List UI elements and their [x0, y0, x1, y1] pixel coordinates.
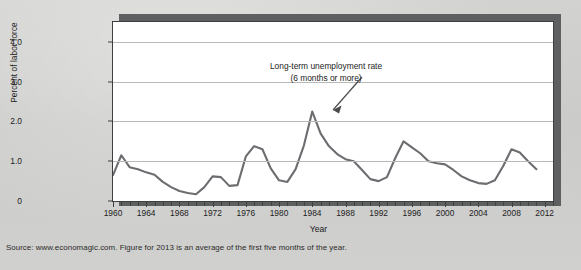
- x-tick-mark-major: [545, 202, 546, 207]
- x-tick-mark-minor: [329, 202, 330, 206]
- x-tick-mark-major: [146, 202, 147, 207]
- x-tick-label: 2008: [502, 208, 521, 218]
- x-tick-mark-minor: [171, 202, 172, 206]
- x-tick-label: 2004: [469, 208, 488, 218]
- x-tick-label: 2000: [436, 208, 455, 218]
- annotation-line-2: (6 months or more): [226, 73, 426, 85]
- x-tick-mark-minor: [188, 202, 189, 206]
- annotation-line-1: Long-term unemployment rate: [226, 61, 426, 73]
- x-tick-mark-minor: [387, 202, 388, 206]
- x-tick-mark-minor: [196, 202, 197, 206]
- x-tick-mark-major: [512, 202, 513, 207]
- x-tick-mark-minor: [536, 202, 537, 206]
- x-tick-mark-minor: [238, 202, 239, 206]
- x-tick-mark-minor: [528, 202, 529, 206]
- x-tick-mark-minor: [362, 202, 363, 206]
- x-tick-mark-minor: [321, 202, 322, 206]
- x-tick-mark-minor: [138, 202, 139, 206]
- y-axis-title: Percent of labor force: [10, 0, 19, 133]
- x-tick-mark-minor: [495, 202, 496, 206]
- x-tick-label: 1980: [270, 208, 289, 218]
- x-tick-mark-minor: [354, 202, 355, 206]
- x-tick-mark-major: [478, 202, 479, 207]
- x-tick-mark-minor: [287, 202, 288, 206]
- x-tick-mark-major: [412, 202, 413, 207]
- x-tick-label: 1972: [203, 208, 222, 218]
- x-tick-mark-major: [113, 202, 114, 207]
- x-tick-mark-minor: [395, 202, 396, 206]
- x-tick-mark-minor: [296, 202, 297, 206]
- x-tick-label: 1964: [137, 208, 156, 218]
- x-tick-label: 1992: [369, 208, 388, 218]
- y-tick-label: 3.0: [0, 77, 22, 87]
- x-tick-label: 1960: [104, 208, 123, 218]
- x-tick-label: 1996: [403, 208, 422, 218]
- x-tick-mark-minor: [130, 202, 131, 206]
- x-tick-mark-major: [279, 202, 280, 207]
- x-tick-mark-minor: [453, 202, 454, 206]
- x-axis-title-wrap: Year: [0, 224, 581, 234]
- y-tick-label: 2.0: [0, 116, 22, 126]
- figure-container: Percent of labor force 01.02.03.04.0 196…: [0, 0, 581, 270]
- x-tick-mark-minor: [370, 202, 371, 206]
- x-tick-mark-major: [179, 202, 180, 207]
- source-note: Source: www.economagic.com. Figure for 2…: [6, 243, 347, 252]
- x-tick-mark-minor: [503, 202, 504, 206]
- x-tick-mark-minor: [121, 202, 122, 206]
- x-tick-mark-minor: [204, 202, 205, 206]
- annotation-arrow-icon: [113, 22, 553, 201]
- x-tick-label: 1984: [303, 208, 322, 218]
- y-tick-label: 1.0: [0, 156, 22, 166]
- x-tick-mark-minor: [304, 202, 305, 206]
- plot-inner: [113, 22, 553, 201]
- chart-annotation: Long-term unemployment rate (6 months or…: [226, 61, 426, 84]
- x-axis-title: Year: [310, 224, 327, 234]
- x-tick-mark-minor: [437, 202, 438, 206]
- x-tick-label: 1988: [336, 208, 355, 218]
- x-tick-label: 1968: [170, 208, 189, 218]
- plot-area: [112, 21, 554, 202]
- x-tick-mark-major: [379, 202, 380, 207]
- x-tick-mark-minor: [337, 202, 338, 206]
- x-tick-mark-minor: [262, 202, 263, 206]
- x-tick-mark-minor: [221, 202, 222, 206]
- x-tick-mark-minor: [462, 202, 463, 206]
- x-tick-mark-major: [445, 202, 446, 207]
- x-tick-mark-minor: [470, 202, 471, 206]
- y-tick-label: 0: [0, 196, 22, 206]
- x-tick-label: 2012: [535, 208, 554, 218]
- x-tick-mark-minor: [163, 202, 164, 206]
- x-tick-mark-minor: [420, 202, 421, 206]
- y-tick-label: 4.0: [0, 37, 22, 47]
- x-tick-mark-minor: [553, 202, 554, 206]
- x-tick-mark-major: [312, 202, 313, 207]
- x-tick-mark-minor: [271, 202, 272, 206]
- x-tick-mark-major: [213, 202, 214, 207]
- x-tick-mark-major: [246, 202, 247, 207]
- x-tick-mark-minor: [429, 202, 430, 206]
- x-tick-label: 1976: [236, 208, 255, 218]
- x-tick-mark-minor: [520, 202, 521, 206]
- x-tick-mark-minor: [487, 202, 488, 206]
- x-tick-mark-minor: [155, 202, 156, 206]
- x-tick-mark-minor: [254, 202, 255, 206]
- x-tick-mark-minor: [229, 202, 230, 206]
- x-tick-mark-major: [346, 202, 347, 207]
- x-tick-mark-minor: [404, 202, 405, 206]
